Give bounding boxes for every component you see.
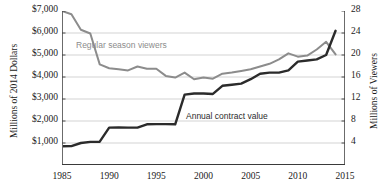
y-right-tick-label: 16 bbox=[351, 70, 381, 80]
y-right-tick-label: 12 bbox=[351, 92, 381, 102]
series-label-regular-season-viewers: Regular season viewers bbox=[76, 40, 167, 50]
x-tick-label: 1995 bbox=[136, 171, 176, 181]
y-left-tick-label: $1,000 bbox=[12, 136, 58, 146]
y-left-tick-label: $4,000 bbox=[12, 70, 58, 80]
x-tick-label: 2010 bbox=[278, 171, 318, 181]
y-left-tick-label: $2,000 bbox=[12, 114, 58, 124]
x-tick-label: 1985 bbox=[42, 171, 82, 181]
y-left-tick-label: $5,000 bbox=[12, 48, 58, 58]
y-right-tick-label: 4 bbox=[351, 136, 381, 146]
y-left-tick-label: $6,000 bbox=[12, 26, 58, 36]
plot-svg bbox=[62, 11, 345, 165]
axis-ticks bbox=[62, 11, 345, 165]
axis-lines bbox=[62, 11, 345, 165]
plot-area bbox=[62, 11, 345, 165]
nfl-tv-contract-chart: Millions of 2014 Dollars Millions of Vie… bbox=[0, 0, 388, 196]
x-tick-label: 2000 bbox=[184, 171, 224, 181]
y-right-tick-label: 28 bbox=[351, 4, 381, 14]
x-tick-label: 2005 bbox=[231, 171, 271, 181]
series-lines bbox=[62, 11, 336, 146]
y-left-tick-label: $7,000 bbox=[12, 4, 58, 14]
y-right-tick-label: 24 bbox=[351, 26, 381, 36]
x-tick-label: 1990 bbox=[89, 171, 129, 181]
x-tick-label: 2015 bbox=[325, 171, 365, 181]
y-right-tick-label: 8 bbox=[351, 114, 381, 124]
series-label-annual-contract-value: Annual contract value bbox=[186, 111, 268, 121]
y-left-tick-label: $3,000 bbox=[12, 92, 58, 102]
y-right-tick-label: 20 bbox=[351, 48, 381, 58]
